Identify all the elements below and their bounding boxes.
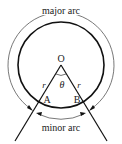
- major-arc-label: major arc: [42, 5, 81, 16]
- arc-diagram: major arc minor arc O A B r r θ: [0, 0, 122, 144]
- major-arc-arrow-left-icon: [27, 105, 33, 111]
- major-arc-arrow-right-icon: [89, 105, 95, 111]
- point-a-label: A: [43, 94, 51, 105]
- minor-arc-path: [38, 114, 84, 119]
- minor-arc-arrow-left-icon: [36, 112, 42, 116]
- radius-right-label: r: [77, 80, 81, 90]
- center-label: O: [57, 53, 64, 64]
- radius-left-label: r: [42, 80, 46, 90]
- point-b-label: B: [74, 94, 81, 105]
- angle-theta-label: θ: [60, 79, 65, 90]
- minor-arc-arrow-right-icon: [80, 112, 86, 116]
- angle-arc: [56, 74, 66, 75]
- minor-arc-label: minor arc: [42, 122, 81, 133]
